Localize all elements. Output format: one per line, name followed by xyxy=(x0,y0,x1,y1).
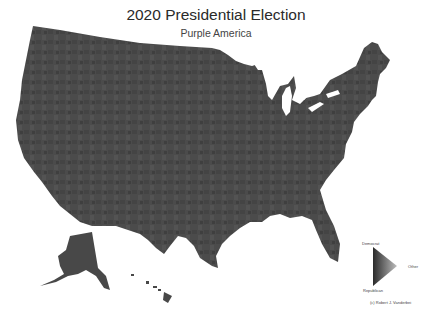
hawaii-islands xyxy=(131,274,172,303)
copyright-credit: (c) Robert J. Vanderbei xyxy=(370,300,411,305)
us-county-map xyxy=(0,0,432,320)
legend-democrat-label: Democrat xyxy=(362,241,379,246)
contiguous-us-shape xyxy=(16,26,390,268)
lake-superior xyxy=(254,58,296,72)
lake-huron xyxy=(298,82,310,100)
legend-republican-label: Republican xyxy=(363,288,383,293)
legend-triangle xyxy=(373,247,397,286)
alaska-shape xyxy=(40,232,110,290)
legend-other-label: Other xyxy=(408,264,418,269)
